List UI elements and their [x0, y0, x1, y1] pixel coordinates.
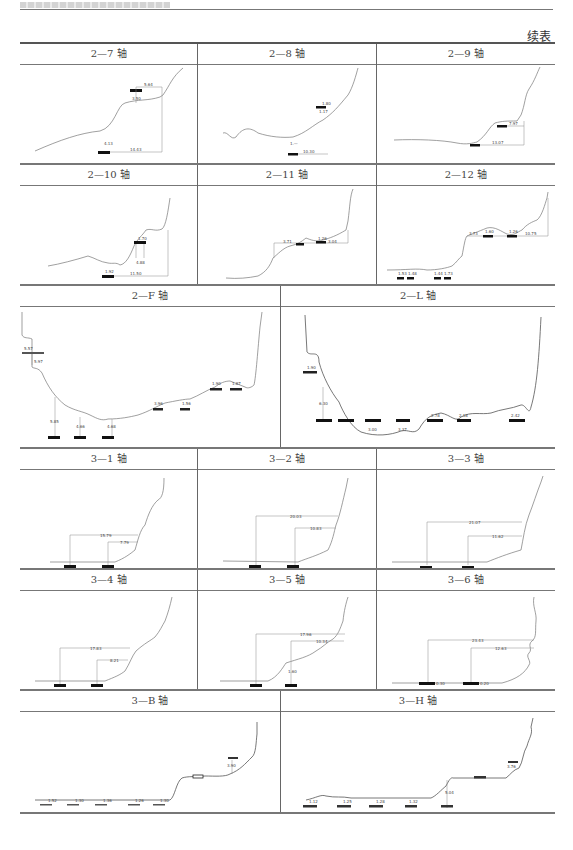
svg-text:1.26: 1.26: [318, 236, 327, 241]
section-profile-drawing: 7.97 13.07: [377, 65, 555, 163]
svg-text:14.43: 14.43: [130, 147, 142, 152]
svg-text:1.44: 1.44: [434, 271, 443, 276]
header-rule: [20, 9, 553, 10]
svg-text:1.28: 1.28: [376, 799, 385, 804]
section-title: 2—12 轴: [377, 165, 555, 186]
svg-text:0.20: 0.20: [480, 681, 489, 686]
section-cell-3-B: 3—B 轴 1.52 1.30 1.36 1.26 1.30 3.90: [20, 691, 281, 812]
svg-text:3.00: 3.00: [368, 427, 377, 432]
svg-text:15.79: 15.79: [100, 533, 112, 538]
svg-text:5.64: 5.64: [144, 82, 153, 87]
svg-text:3.73: 3.73: [469, 231, 478, 236]
table-row: 2—7 轴 5.64 3.50 4.13 14.43 2—8 轴 1.80: [20, 42, 555, 165]
svg-text:1.30: 1.30: [75, 798, 84, 803]
section-title: 3—2 轴: [198, 449, 375, 470]
svg-text:5.57: 5.57: [24, 346, 33, 351]
svg-text:5.85: 5.85: [50, 419, 59, 424]
section-title: 2—8 轴: [198, 44, 375, 65]
section-title: 3—1 轴: [20, 449, 197, 470]
svg-text:1.26: 1.26: [509, 229, 518, 234]
svg-text:1.36: 1.36: [103, 798, 112, 803]
svg-text:1.53: 1.53: [398, 271, 407, 276]
section-profile-drawing: 1.80 1.17 1.— 10.30: [198, 65, 376, 163]
svg-text:3.90: 3.90: [227, 763, 236, 768]
section-title: 2—7 轴: [20, 44, 197, 65]
table-row: 2—10 轴 1.70 4.88 1.92 11.50 2—11 轴: [20, 165, 555, 286]
section-profile-drawing: 1.12 1.25 1.28 1.32 5.04 3.76: [281, 712, 555, 812]
svg-text:10.75: 10.75: [525, 231, 537, 236]
section-cell-3-5: 3—5 轴 17.96 10.34 1.60: [198, 570, 376, 689]
section-title: 2—10 轴: [20, 165, 197, 186]
section-profile-drawing: 17.83 8.21: [20, 591, 198, 689]
section-cell-2-11: 2—11 轴 3.71 1.26 3.04: [198, 165, 376, 284]
section-profile-drawing: 1.90 6.30 3.00 3.37 2.78 2.18 2.42: [281, 307, 555, 447]
section-title: 3—4 轴: [20, 570, 197, 591]
table-row: 3—4 轴 17.83 8.21 3—5 轴: [20, 570, 555, 691]
section-profile-drawing: 23.43 12.63 0.30 0.20: [377, 591, 555, 689]
svg-text:17.83: 17.83: [90, 646, 102, 651]
svg-text:11.62: 11.62: [492, 534, 504, 539]
svg-text:10.34: 10.34: [316, 639, 328, 644]
section-profile-drawing: 17.96 10.34 1.60: [198, 591, 376, 689]
svg-text:3.76: 3.76: [507, 764, 516, 769]
svg-text:2.78: 2.78: [431, 413, 440, 418]
svg-text:7.79: 7.79: [120, 540, 129, 545]
svg-text:1.17: 1.17: [319, 109, 328, 114]
section-profile-drawing: 5.64 3.50 4.13 14.43: [20, 65, 198, 163]
svg-text:1.—: 1.—: [290, 141, 298, 146]
svg-text:0.30: 0.30: [436, 681, 445, 686]
svg-text:1.70: 1.70: [138, 236, 147, 241]
table-row: 3—B 轴 1.52 1.30 1.36 1.26 1.30 3.90 3—H …: [20, 691, 555, 814]
section-cell-2-10: 2—10 轴 1.70 4.88 1.92 11.50: [20, 165, 198, 284]
section-cell-2-9: 2—9 轴 7.97 13.07: [377, 44, 555, 163]
section-cell-2-7: 2—7 轴 5.64 3.50 4.13 14.43: [20, 44, 198, 163]
section-cell-3-H: 3—H 轴 1.12 1.25 1.28 1.32 5.04 3.76: [281, 691, 555, 812]
section-title: 3—H 轴: [281, 691, 555, 712]
svg-text:17.96: 17.96: [300, 632, 312, 637]
svg-text:10.30: 10.30: [303, 149, 315, 154]
svg-text:21.07: 21.07: [469, 520, 481, 525]
section-title: 2—F 轴: [20, 286, 280, 307]
section-profile-drawing: 3.73 1.60 1.26 10.75 1.53 1.48 1.44 1.73: [377, 186, 555, 284]
svg-text:13.07: 13.07: [492, 140, 504, 145]
svg-text:3.71: 3.71: [283, 239, 292, 244]
section-cell-3-3: 3—3 轴 21.07 11.62: [377, 449, 555, 568]
section-cell-3-4: 3—4 轴 17.83 8.21: [20, 570, 198, 689]
section-cell-3-6: 3—6 轴 23.43 12.63 0.30 0.20: [377, 570, 555, 689]
section-title: 2—L 轴: [281, 286, 555, 307]
section-profile-drawing: 15.79 7.79: [20, 470, 198, 568]
section-cell-2-8: 2—8 轴 1.80 1.17 1.— 10.30: [198, 44, 376, 163]
svg-text:7.97: 7.97: [509, 121, 518, 126]
svg-text:8.21: 8.21: [110, 658, 119, 663]
svg-text:12.63: 12.63: [495, 646, 507, 651]
svg-text:1.90: 1.90: [212, 381, 221, 386]
svg-text:11.50: 11.50: [130, 271, 142, 276]
section-cell-3-2: 3—2 轴 20.03 10.83: [198, 449, 376, 568]
section-profile-drawing: 5.57 5.97 5.85 4.66 4.68 3.96 1.56 1.90 …: [20, 307, 281, 447]
section-cell-2-12: 2—12 轴 3.73 1.60 1.26 10.75 1.53 1.48 1.…: [377, 165, 555, 284]
svg-text:1.80: 1.80: [322, 101, 331, 106]
cross-section-table: 2—7 轴 5.64 3.50 4.13 14.43 2—8 轴 1.80: [20, 42, 555, 814]
svg-text:3.04: 3.04: [328, 239, 337, 244]
section-profile-drawing: 3.71 1.26 3.04: [198, 186, 376, 284]
svg-text:3.50: 3.50: [132, 96, 141, 101]
svg-text:2.18: 2.18: [459, 413, 468, 418]
svg-text:1.60: 1.60: [288, 669, 297, 674]
table-row: 2—F 轴 5.57 5.97 5.85 4.66 4.68: [20, 286, 555, 449]
svg-text:4.13: 4.13: [104, 141, 113, 146]
section-profile-drawing: 1.70 4.88 1.92 11.50: [20, 186, 198, 284]
svg-text:1.25: 1.25: [343, 799, 352, 804]
svg-text:4.68: 4.68: [107, 424, 116, 429]
svg-text:1.73: 1.73: [444, 271, 453, 276]
section-cell-3-1: 3—1 轴 15.79 7.79: [20, 449, 198, 568]
section-profile-drawing: 21.07 11.62: [377, 470, 555, 568]
section-cell-2-F: 2—F 轴 5.57 5.97 5.85 4.66 4.68: [20, 286, 281, 447]
section-title: 3—3 轴: [377, 449, 555, 470]
svg-text:2.42: 2.42: [511, 413, 520, 418]
svg-text:10.83: 10.83: [310, 526, 322, 531]
running-head: [20, 2, 170, 8]
svg-text:3.37: 3.37: [398, 427, 407, 432]
svg-text:1.30: 1.30: [160, 798, 169, 803]
table-row: 3—1 轴 15.79 7.79 3—2 轴: [20, 449, 555, 570]
svg-text:1.52: 1.52: [48, 798, 57, 803]
